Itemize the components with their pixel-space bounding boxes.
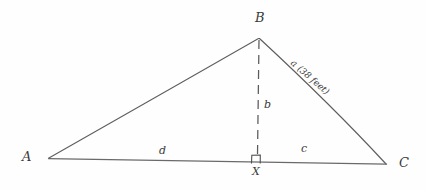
vertex-label-a: A xyxy=(22,150,32,163)
vertex-label-b: B xyxy=(255,11,265,24)
segment-label-c: c xyxy=(301,143,307,154)
geometry-diagram-canvas: A B C X d c b a (38 feet) xyxy=(0,0,426,191)
vertex-label-c: C xyxy=(399,156,409,169)
foot-label-x: X xyxy=(252,166,260,177)
segment-ac-base xyxy=(49,159,387,165)
segment-bc xyxy=(260,39,387,165)
segment-label-b-altitude: b xyxy=(264,99,271,110)
segment-label-d: d xyxy=(159,145,166,156)
triangle-figure xyxy=(0,0,426,191)
segment-bx-altitude xyxy=(258,40,260,155)
segment-ab xyxy=(49,39,259,159)
